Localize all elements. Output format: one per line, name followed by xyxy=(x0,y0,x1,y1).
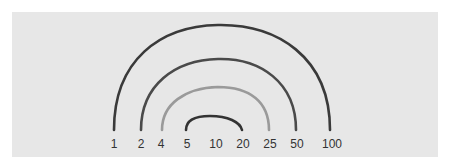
number-label: 100 xyxy=(322,137,342,151)
arc-4-25 xyxy=(162,87,269,130)
number-label: 20 xyxy=(236,137,249,151)
number-label: 25 xyxy=(263,137,276,151)
arc-1-100 xyxy=(114,25,330,130)
number-label: 10 xyxy=(209,137,222,151)
factor-arcs xyxy=(0,0,450,159)
number-label: 2 xyxy=(138,137,145,151)
arc-5-20 xyxy=(186,116,242,130)
number-label: 50 xyxy=(290,137,303,151)
number-label: 1 xyxy=(111,137,118,151)
number-label: 4 xyxy=(158,137,165,151)
number-label: 5 xyxy=(184,137,191,151)
